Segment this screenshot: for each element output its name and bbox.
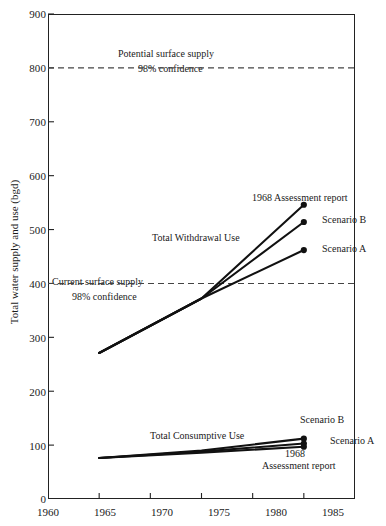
- axis-ticks: [48, 14, 304, 499]
- chart-plot-svg: [0, 0, 386, 526]
- data-series: [99, 202, 307, 458]
- reference-lines: [48, 68, 355, 284]
- chart-container: 900 800 700 600 500 400 300 200 100 0 19…: [0, 0, 386, 526]
